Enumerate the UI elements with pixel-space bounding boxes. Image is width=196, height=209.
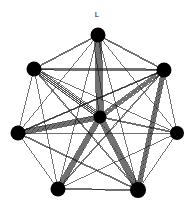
graph-label-l: L (95, 11, 100, 19)
graph-node-lower-left[interactable] (51, 182, 66, 197)
graph-canvas (0, 0, 196, 209)
graph-node-right[interactable] (170, 126, 184, 140)
graph-edge (58, 189, 138, 191)
graph-edge (98, 35, 164, 71)
graph-edge (164, 70, 177, 133)
graph-node-lower-right[interactable] (130, 182, 146, 198)
graph-figure: L (0, 0, 196, 209)
graph-node-upper-right[interactable] (157, 63, 172, 78)
graph-node-upper-left[interactable] (27, 62, 42, 77)
node-layer (11, 28, 185, 199)
graph-edge (34, 68, 164, 71)
graph-edge (18, 70, 164, 133)
graph-node-left[interactable] (11, 126, 26, 141)
graph-edge (95, 35, 104, 117)
graph-node-top[interactable] (91, 28, 106, 43)
graph-edge (18, 133, 58, 189)
graph-node-center-hub[interactable] (94, 111, 107, 124)
graph-edge (34, 35, 98, 70)
